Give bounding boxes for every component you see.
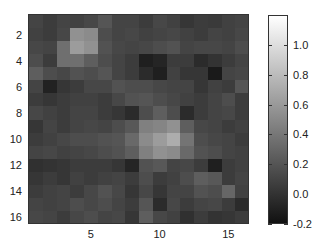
heatmap-cell [112, 93, 126, 106]
heatmap-cell [98, 80, 112, 93]
heatmap-cell [29, 41, 43, 54]
heatmap-cell [208, 80, 222, 93]
heatmap-cell [70, 93, 84, 106]
heatmap-cell [208, 185, 222, 198]
y-tick-label: 4 [2, 55, 22, 67]
heatmap-cell [139, 198, 153, 211]
heatmap-cell [84, 54, 98, 67]
heatmap-cell [194, 185, 208, 198]
heatmap-cell [167, 67, 181, 80]
heatmap-cell [180, 80, 194, 93]
heatmap-cell [84, 106, 98, 119]
heatmap-cell [208, 67, 222, 80]
heatmap-cell [153, 28, 167, 41]
colorbar-tick-label: -0.2 [293, 218, 312, 230]
heatmap-cell [235, 93, 249, 106]
heatmap-cell [112, 159, 126, 172]
heatmap-cell [194, 106, 208, 119]
heatmap-cell [43, 185, 57, 198]
heatmap-cell [139, 93, 153, 106]
heatmap-cell [29, 198, 43, 211]
heatmap-cell [84, 172, 98, 185]
x-tick-label: 5 [79, 228, 103, 240]
heatmap-cell [180, 41, 194, 54]
heatmap-cell [222, 185, 236, 198]
heatmap-cell [84, 41, 98, 54]
heatmap-cell [222, 41, 236, 54]
heatmap-cell [84, 159, 98, 172]
heatmap-cell [235, 172, 249, 185]
heatmap-cell [222, 159, 236, 172]
heatmap-cell [98, 198, 112, 211]
heatmap-cell [167, 120, 181, 133]
heatmap-cell [194, 67, 208, 80]
heatmap-cell [153, 172, 167, 185]
heatmap-cell [43, 172, 57, 185]
heatmap-cell [70, 198, 84, 211]
heatmap-cell [98, 146, 112, 159]
heatmap-cell [57, 93, 71, 106]
heatmap-cell [194, 54, 208, 67]
heatmap-cell [57, 106, 71, 119]
heatmap-cell [139, 159, 153, 172]
heatmap-cell [194, 159, 208, 172]
heatmap-cell [222, 198, 236, 211]
heatmap-cell [125, 159, 139, 172]
colorbar-tick-mark [268, 194, 272, 195]
heatmap-cell [153, 120, 167, 133]
heatmap-cell [125, 146, 139, 159]
heatmap-cell [29, 54, 43, 67]
heatmap-cell [125, 185, 139, 198]
heatmap-cell [139, 54, 153, 67]
heatmap-cell [208, 41, 222, 54]
heatmap-cell [235, 54, 249, 67]
heatmap-cell [167, 28, 181, 41]
heatmap-cell [180, 28, 194, 41]
heatmap-cell [235, 67, 249, 80]
heatmap-cell [98, 185, 112, 198]
heatmap-cell [180, 198, 194, 211]
heatmap-cell [70, 120, 84, 133]
heatmap-cell [167, 211, 181, 224]
heatmap-cell [153, 185, 167, 198]
heatmap-cell [98, 28, 112, 41]
heatmap-cell [112, 67, 126, 80]
heatmap-cell [84, 211, 98, 224]
heatmap-cell [153, 80, 167, 93]
heatmap-cell [57, 67, 71, 80]
heatmap-cell [57, 28, 71, 41]
heatmap-cell [222, 172, 236, 185]
colorbar-tick-mark [268, 45, 272, 46]
heatmap-cell [125, 211, 139, 224]
heatmap-cell [167, 146, 181, 159]
heatmap-cell [125, 93, 139, 106]
heatmap-cell [29, 146, 43, 159]
heatmap-cell [70, 67, 84, 80]
heatmap-cell [98, 120, 112, 133]
colorbar-tick-mark [284, 224, 288, 225]
heatmap-cell [222, 93, 236, 106]
heatmap-cell [84, 198, 98, 211]
heatmap-cell [235, 41, 249, 54]
heatmap-cell [70, 80, 84, 93]
heatmap-cell [57, 15, 71, 28]
heatmap-cell [125, 133, 139, 146]
heatmap-cell [29, 185, 43, 198]
heatmap-cell [57, 159, 71, 172]
heatmap-cell [194, 146, 208, 159]
heatmap-cell [70, 211, 84, 224]
heatmap-cell [167, 198, 181, 211]
colorbar-tick-mark [284, 134, 288, 135]
colorbar-tick-label: 0.6 [293, 99, 308, 111]
heatmap-cell [139, 211, 153, 224]
heatmap-cell [125, 54, 139, 67]
heatmap-cell [43, 159, 57, 172]
heatmap-cell [98, 133, 112, 146]
heatmap-cell [208, 198, 222, 211]
heatmap-cell [208, 133, 222, 146]
heatmap-cell [194, 120, 208, 133]
heatmap-cell [84, 120, 98, 133]
y-tick-label: 2 [2, 29, 22, 41]
colorbar-tick-mark [284, 45, 288, 46]
colorbar-tick-label: 0.2 [293, 158, 308, 170]
